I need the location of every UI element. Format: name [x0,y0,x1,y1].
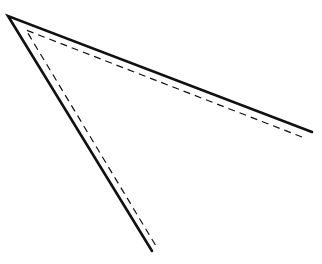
solid-angle-lines [8,16,312,251]
dashed-angle-lines [26,30,302,246]
angle-diagram [0,0,322,264]
